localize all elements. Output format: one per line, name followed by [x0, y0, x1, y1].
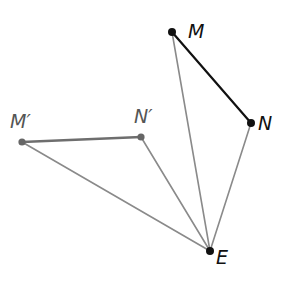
point-e	[206, 247, 214, 255]
point-n	[247, 119, 255, 127]
label-m: M	[188, 20, 204, 42]
label-np: N′	[134, 105, 153, 127]
rotation-diagram: MNM′N′E	[0, 0, 294, 292]
segment-mp-np	[22, 137, 141, 142]
labels-layer: MNM′N′E	[10, 20, 272, 268]
label-n: N	[258, 112, 272, 134]
segment-mp-e	[22, 142, 210, 251]
label-mp: M′	[10, 110, 31, 132]
segment-m-n	[172, 32, 251, 123]
point-mp	[18, 138, 25, 145]
segment-n-e	[210, 123, 251, 251]
segments-layer	[22, 32, 251, 251]
point-np	[137, 133, 144, 140]
point-m	[168, 28, 176, 36]
label-e: E	[216, 246, 228, 268]
